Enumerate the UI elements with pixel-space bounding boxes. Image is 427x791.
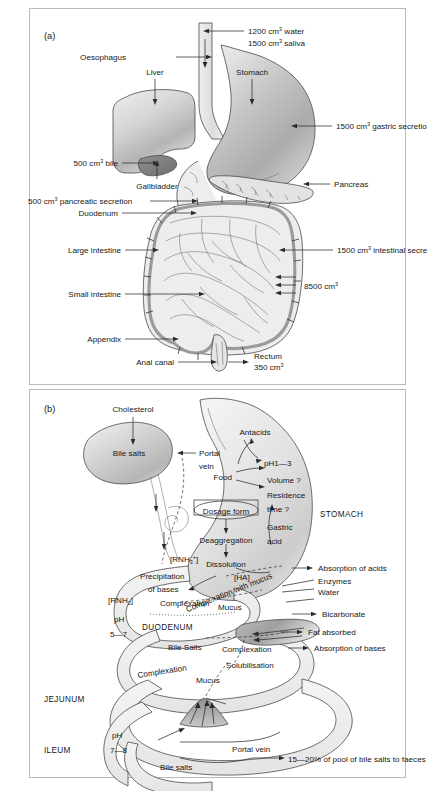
label-large-intestine: Large intestine	[68, 246, 122, 255]
label-complexation-2: Complexation	[222, 645, 272, 654]
label-intestinal-secretion: 1500 cm3 intestinal secretion	[337, 245, 427, 255]
label-antacids: Antacids	[239, 428, 270, 437]
label-duodenum-region: DUODENUM	[142, 623, 193, 632]
label-fat-absorbed: Fat absorbed	[308, 628, 356, 637]
label-jejunum-region: JEJUNUM	[44, 695, 85, 704]
label-bile-salts-2: Bile Salts	[168, 643, 202, 652]
label-food: Food	[214, 473, 232, 482]
label-absorption-of-bases: Absorption of bases	[314, 644, 386, 653]
label-residence: Residence	[267, 491, 306, 500]
label-mucus-1: Mucus	[218, 603, 242, 612]
label-precipitation: Precipitation	[140, 572, 185, 581]
label-saliva: 1500 cm3 saliva	[248, 38, 305, 48]
label-oesophagus: Oesophagus	[80, 53, 126, 62]
label-mucus-2: Mucus	[196, 676, 220, 685]
label-dosage-form: Dosage form	[203, 507, 250, 516]
label-portal-vein: Portal vein	[232, 745, 270, 754]
label-cholesterol: Cholesterol	[113, 405, 154, 414]
label-duodenum: Duodenum	[78, 209, 118, 218]
label-total-volume: 8500 cm3	[304, 281, 338, 291]
panel-a-label: (a)	[44, 31, 55, 41]
label-bicarbonate: Bicarbonate	[322, 610, 366, 619]
label-complexation-1: Complexation	[160, 599, 210, 608]
label-ph-5-7-b: 5—7	[110, 630, 128, 639]
label-water: Water	[318, 588, 340, 597]
label-vein: vein	[199, 462, 214, 471]
label-faeces: 15—20% of pool of bile salts to faeces	[288, 755, 426, 764]
label-water: 1200 cm3 water	[248, 26, 304, 36]
figure-container: (a) 1200 cm3 water 1500 cm3 saliva Oesop…	[0, 0, 427, 791]
panel-b-drawing: (b) Cholesterol Bile salts Portal vein A…	[30, 390, 405, 777]
label-time: time ?	[267, 505, 290, 514]
label-ph-1-3: pH1—3	[264, 459, 292, 468]
label-absorption-of-acids: Absorption of acids	[318, 564, 387, 573]
label-bile-salts-3: Bile salts	[160, 763, 192, 772]
label-gastric: Gastric	[267, 523, 293, 532]
label-appendix: Appendix	[87, 335, 121, 344]
label-volume: Volume ?	[267, 476, 301, 485]
label-pancreatic-secretion: 500 cm3 pancreatic secretion	[28, 196, 132, 206]
panel-b-frame: (b) Cholesterol Bile salts Portal vein A…	[29, 389, 406, 778]
label-pancreas: Pancreas	[334, 180, 368, 189]
panel-a-frame: (a) 1200 cm3 water 1500 cm3 saliva Oesop…	[29, 8, 406, 385]
label-ph-5-7-a: pH	[114, 615, 125, 624]
label-dissolution: Dissolution	[206, 560, 246, 569]
label-liver: Liver	[146, 68, 164, 77]
label-rectum: Rectum	[254, 352, 282, 361]
label-complexation-3: Complexation	[137, 663, 187, 680]
label-small-intestine: Small intestine	[68, 290, 121, 299]
label-ph-7-8-b: 7—8	[110, 746, 128, 755]
label-stomach: Stomach	[236, 68, 268, 77]
label-ileum-region: ILEUM	[44, 746, 71, 755]
panel-a-drawing: (a) 1200 cm3 water 1500 cm3 saliva Oesop…	[30, 9, 405, 384]
label-rectum-volume: 350 cm3	[254, 362, 284, 372]
label-acid: acid	[267, 537, 282, 546]
label-gallbladder: Gallbladder	[136, 182, 178, 191]
label-of-bases: of bases	[148, 585, 179, 594]
label-ph-7-8-a: pH	[112, 731, 123, 740]
label-gastric-secretion: 1500 cm3 gastric secretion	[336, 121, 427, 131]
label-stomach-region: STOMACH	[320, 510, 363, 519]
label-anal-canal: Anal canal	[136, 358, 174, 367]
panel-b-label: (b)	[44, 404, 55, 414]
label-solubilisation: Solubilisation	[226, 661, 274, 670]
label-enzymes: Enzymes	[318, 577, 351, 586]
label-bile: 500 cm3 bile	[74, 158, 119, 168]
label-portal: Portal	[199, 449, 220, 458]
label-deaggregation: Deaggregation	[199, 536, 252, 545]
label-bile-salts: Bile salts	[113, 449, 145, 458]
